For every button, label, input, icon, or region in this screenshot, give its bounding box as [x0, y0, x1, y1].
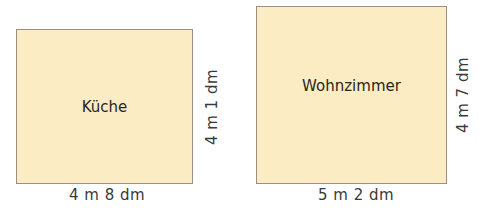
width-label-kueche: 4 m 8 dm: [69, 186, 145, 204]
width-label-wohnzimmer: 5 m 2 dm: [318, 186, 394, 204]
room-name: Küche: [17, 98, 192, 116]
height-label-kueche: 4 m 1 dm: [203, 67, 221, 147]
room-kueche: Küche: [16, 29, 193, 184]
height-label-wohnzimmer: 4 m 7 dm: [454, 55, 472, 135]
room-name: Wohnzimmer: [257, 77, 446, 95]
room-wohnzimmer: Wohnzimmer: [256, 6, 447, 184]
